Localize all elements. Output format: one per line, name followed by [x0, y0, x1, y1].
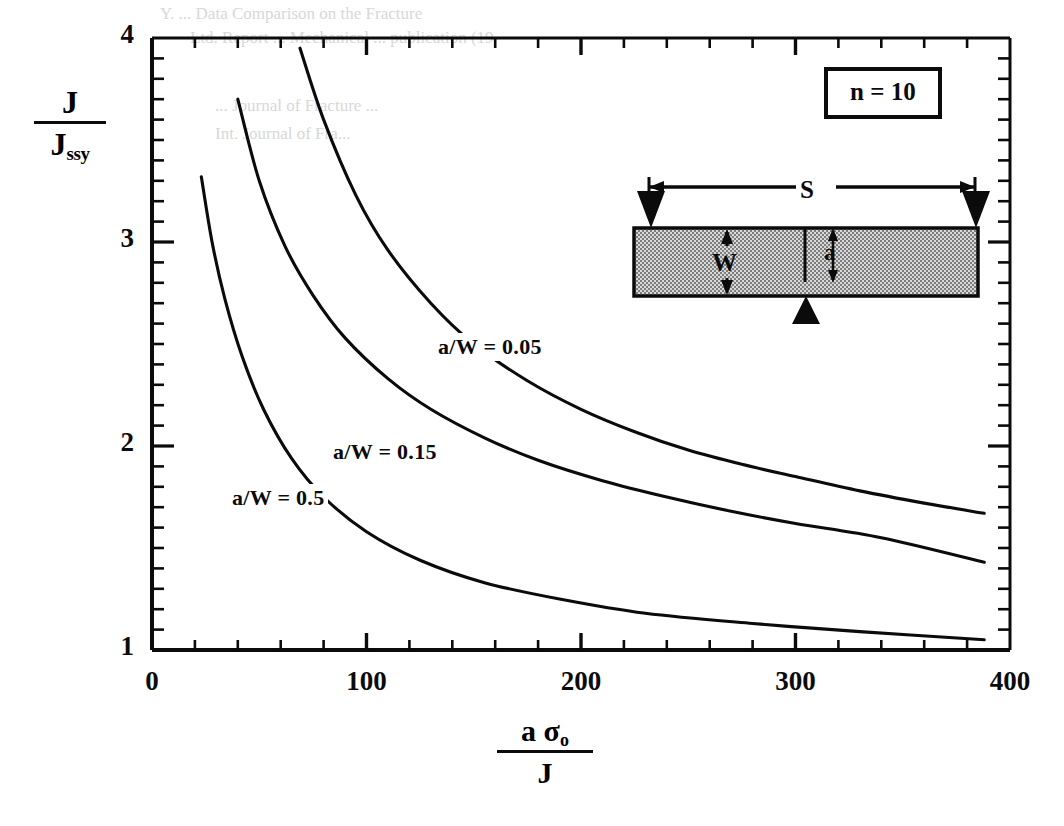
support-right-arrow — [962, 191, 990, 228]
curve-label-aw-015: a/W = 0.15 — [329, 438, 441, 466]
x-axis-label: a σo J — [470, 716, 620, 788]
inset-width-label: W — [712, 249, 737, 277]
y-axis-label: J Jssy — [22, 86, 118, 160]
x-axis-denominator: J — [470, 758, 620, 788]
curve-label-aw-05: a/W = 0.5 — [228, 484, 328, 512]
support-left-arrow — [637, 191, 665, 228]
y-tick-label-1: 1 — [90, 631, 134, 662]
plot-svg — [0, 0, 1064, 826]
x-tick-label-100: 100 — [337, 666, 397, 697]
y-axis-fraction-rule — [34, 121, 106, 124]
x-axis-fraction-rule — [497, 750, 593, 753]
inset-span-label: S — [800, 176, 814, 204]
data-curves — [201, 48, 984, 640]
inset-crack-label: a — [824, 240, 836, 266]
x-tick-label-200: 200 — [551, 666, 611, 697]
axis-ticks — [152, 38, 1010, 650]
y-tick-label-2: 2 — [90, 427, 134, 458]
plot-frame — [152, 38, 1010, 650]
x-tick-label-400: 400 — [980, 666, 1040, 697]
x-tick-label-300: 300 — [766, 666, 826, 697]
load-arrow — [792, 296, 820, 324]
y-axis-denominator: Jssy — [22, 128, 118, 160]
y-axis-numerator: J — [22, 86, 118, 118]
y-tick-label-4: 4 — [90, 19, 134, 50]
x-axis-numerator: a σo — [470, 716, 620, 746]
figure-canvas: Y. ... Data Comparison on the Fracture L… — [0, 0, 1064, 826]
y-tick-label-3: 3 — [90, 223, 134, 254]
x-tick-label-0: 0 — [122, 666, 182, 697]
n-value-box: n = 10 — [824, 67, 942, 119]
curve-label-aw-005: a/W = 0.05 — [434, 333, 546, 361]
n-value-label: n = 10 — [850, 78, 916, 105]
